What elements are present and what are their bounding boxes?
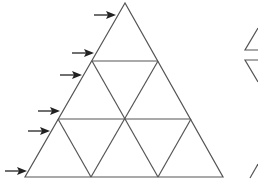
arrow-6: [5, 167, 27, 175]
partial-shapes-right: [245, 28, 258, 178]
arrow-2: [72, 49, 94, 57]
partial-triangle-top: [245, 28, 258, 50]
partial-triangle-inverted: [245, 60, 258, 82]
outer-triangle: [25, 3, 223, 177]
partial-triangle-bottom: [250, 164, 258, 178]
arrow-4: [38, 107, 60, 115]
big-triangle-grid: [25, 3, 223, 177]
triangle-diagram: [0, 0, 258, 180]
grid-line-d2: [58, 119, 91, 177]
arrow-1: [94, 11, 116, 19]
arrow-5: [28, 127, 50, 135]
arrows: [5, 11, 116, 175]
arrow-3: [60, 71, 82, 79]
grid-line-d4: [158, 119, 191, 177]
